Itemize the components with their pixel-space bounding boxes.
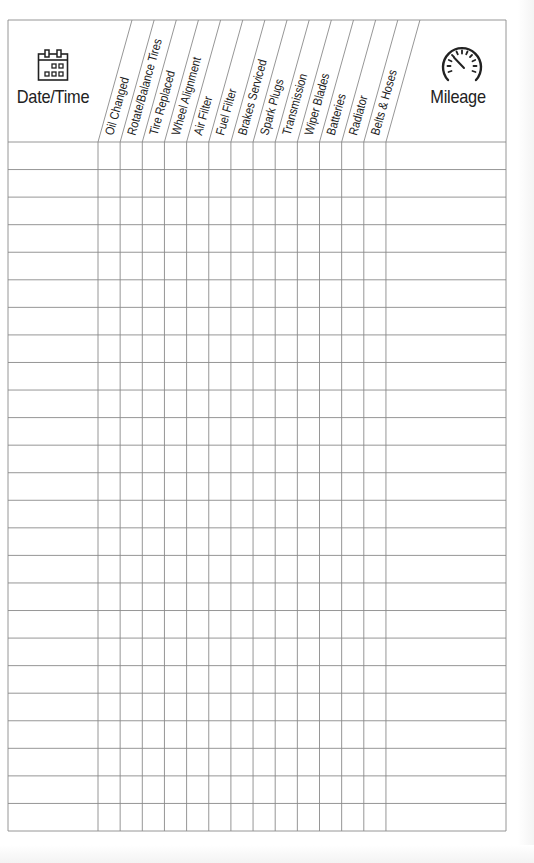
service-check-cell[interactable] [187, 225, 208, 252]
service-check-cell[interactable] [209, 528, 230, 555]
service-check-cell[interactable] [187, 639, 208, 666]
table-row[interactable] [9, 804, 506, 831]
mileage-cell[interactable] [386, 363, 505, 390]
service-check-cell[interactable] [121, 363, 142, 390]
service-check-cell[interactable] [364, 583, 385, 610]
service-check-cell[interactable] [254, 804, 275, 831]
service-check-cell[interactable] [276, 335, 297, 362]
service-check-cell[interactable] [231, 225, 252, 252]
service-check-cell[interactable] [276, 666, 297, 693]
service-check-cell[interactable] [187, 611, 208, 638]
table-row[interactable] [9, 721, 506, 748]
service-check-cell[interactable] [121, 253, 142, 280]
service-check-cell[interactable] [143, 253, 164, 280]
mileage-cell[interactable] [386, 391, 505, 418]
service-check-cell[interactable] [254, 694, 275, 721]
service-check-cell[interactable] [276, 749, 297, 776]
service-check-cell[interactable] [276, 418, 297, 445]
table-row[interactable] [9, 225, 506, 252]
service-check-cell[interactable] [209, 391, 230, 418]
service-check-cell[interactable] [364, 391, 385, 418]
service-check-cell[interactable] [342, 225, 363, 252]
service-check-cell[interactable] [364, 611, 385, 638]
service-check-cell[interactable] [320, 776, 341, 803]
service-check-cell[interactable] [165, 639, 186, 666]
service-check-cell[interactable] [364, 363, 385, 390]
service-check-cell[interactable] [320, 611, 341, 638]
service-check-cell[interactable] [121, 528, 142, 555]
service-check-cell[interactable] [99, 391, 120, 418]
service-check-cell[interactable] [342, 749, 363, 776]
service-check-cell[interactable] [165, 225, 186, 252]
service-check-cell[interactable] [187, 721, 208, 748]
date-time-cell[interactable] [9, 473, 98, 500]
service-check-cell[interactable] [298, 225, 319, 252]
service-check-cell[interactable] [99, 583, 120, 610]
service-check-cell[interactable] [165, 391, 186, 418]
service-check-cell[interactable] [143, 528, 164, 555]
table-row[interactable] [9, 363, 506, 390]
mileage-cell[interactable] [386, 143, 505, 170]
service-check-cell[interactable] [298, 170, 319, 197]
service-check-cell[interactable] [254, 583, 275, 610]
service-check-cell[interactable] [143, 556, 164, 583]
service-check-cell[interactable] [364, 253, 385, 280]
service-check-cell[interactable] [187, 253, 208, 280]
service-check-cell[interactable] [99, 363, 120, 390]
service-check-cell[interactable] [99, 721, 120, 748]
date-time-cell[interactable] [9, 501, 98, 528]
service-check-cell[interactable] [320, 639, 341, 666]
service-check-cell[interactable] [121, 639, 142, 666]
table-row[interactable] [9, 280, 506, 307]
service-check-cell[interactable] [165, 804, 186, 831]
service-check-cell[interactable] [209, 335, 230, 362]
service-check-cell[interactable] [298, 446, 319, 473]
service-check-cell[interactable] [121, 501, 142, 528]
service-check-cell[interactable] [143, 804, 164, 831]
service-check-cell[interactable] [298, 721, 319, 748]
service-check-cell[interactable] [209, 143, 230, 170]
service-check-cell[interactable] [187, 749, 208, 776]
service-check-cell[interactable] [209, 804, 230, 831]
service-check-cell[interactable] [143, 446, 164, 473]
service-check-cell[interactable] [298, 198, 319, 225]
service-check-cell[interactable] [231, 639, 252, 666]
service-check-cell[interactable] [320, 694, 341, 721]
service-check-cell[interactable] [143, 749, 164, 776]
mileage-cell[interactable] [386, 639, 505, 666]
service-check-cell[interactable] [99, 501, 120, 528]
service-check-cell[interactable] [342, 308, 363, 335]
service-check-cell[interactable] [143, 225, 164, 252]
service-check-cell[interactable] [187, 391, 208, 418]
service-check-cell[interactable] [342, 143, 363, 170]
date-time-cell[interactable] [9, 749, 98, 776]
service-check-cell[interactable] [231, 198, 252, 225]
service-check-cell[interactable] [254, 198, 275, 225]
service-check-cell[interactable] [121, 335, 142, 362]
service-check-cell[interactable] [364, 721, 385, 748]
service-check-cell[interactable] [99, 666, 120, 693]
service-check-cell[interactable] [187, 583, 208, 610]
service-check-cell[interactable] [364, 749, 385, 776]
service-check-cell[interactable] [187, 528, 208, 555]
service-check-cell[interactable] [187, 418, 208, 445]
service-check-cell[interactable] [165, 666, 186, 693]
mileage-cell[interactable] [386, 556, 505, 583]
service-check-cell[interactable] [298, 308, 319, 335]
service-check-cell[interactable] [254, 391, 275, 418]
service-check-cell[interactable] [320, 446, 341, 473]
mileage-cell[interactable] [386, 528, 505, 555]
service-check-cell[interactable] [254, 170, 275, 197]
service-check-cell[interactable] [165, 583, 186, 610]
service-check-cell[interactable] [187, 143, 208, 170]
service-check-cell[interactable] [143, 170, 164, 197]
service-check-cell[interactable] [320, 363, 341, 390]
service-check-cell[interactable] [231, 391, 252, 418]
mileage-cell[interactable] [386, 804, 505, 831]
service-check-cell[interactable] [320, 308, 341, 335]
service-check-cell[interactable] [143, 308, 164, 335]
date-time-cell[interactable] [9, 170, 98, 197]
service-check-cell[interactable] [254, 639, 275, 666]
service-check-cell[interactable] [209, 225, 230, 252]
table-row[interactable] [9, 446, 506, 473]
